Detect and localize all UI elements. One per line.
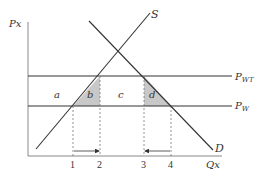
world-price-label: PW — [234, 100, 250, 113]
supply-label: S — [151, 8, 159, 21]
tariff-diagram: Px Qx S D PWT PW a b c d 1 2 3 4 — [0, 0, 258, 180]
x-axis-label: Qx — [206, 159, 220, 170]
area-c-label: c — [118, 89, 124, 100]
y-axis-label: Px — [8, 18, 22, 29]
tick-q1: 1 — [70, 159, 75, 170]
tick-q4: 4 — [168, 159, 173, 170]
area-b-label: b — [87, 89, 93, 100]
area-d-label: d — [149, 89, 155, 100]
tick-q3: 3 — [141, 159, 146, 170]
supply-curve — [36, 13, 150, 149]
tariff-price-label: PWT — [234, 71, 255, 84]
tick-q2: 2 — [97, 159, 102, 170]
area-a-label: a — [54, 89, 60, 100]
demand-curve — [89, 21, 213, 150]
demand-label: D — [214, 142, 224, 155]
